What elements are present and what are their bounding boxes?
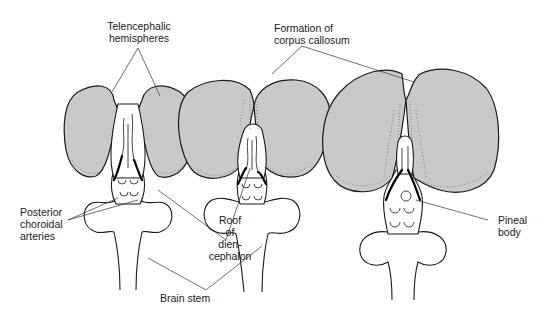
label-telencephalic-hemispheres: Telencephalic hemispheres — [104, 20, 174, 44]
stage-2-brain — [179, 80, 331, 292]
stage-1-brain-stem — [84, 200, 172, 290]
stage-3-brain — [323, 69, 499, 300]
label-brain-stem: Brain stem — [160, 292, 230, 304]
stage-3-right-hemisphere — [406, 69, 499, 192]
label-posterior-choroidal-arteries: Posterior choroidal arteries — [20, 206, 80, 242]
label-formation-corpus-callosum: Formation of corpus callosum — [274, 22, 374, 46]
stage-3-left-hemisphere — [323, 70, 406, 192]
stage-1-left-hemisphere — [64, 86, 118, 177]
stage-3-brain-stem — [360, 232, 446, 300]
label-roof-of-diencephalon: Roof of dien- cephalon — [208, 214, 252, 262]
stage-1-brain — [64, 86, 193, 290]
label-pineal-body: Pineal body — [498, 214, 548, 238]
brain-development-diagram — [0, 0, 550, 313]
